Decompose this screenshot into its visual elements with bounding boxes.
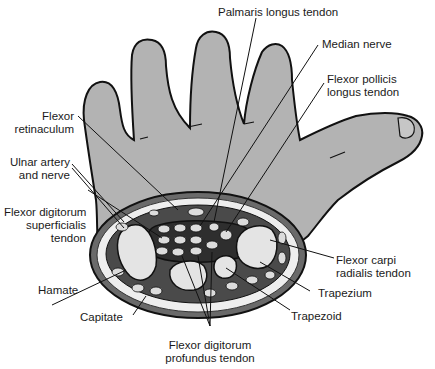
label-palmaris-longus-tendon: Palmaris longus tendon — [218, 6, 338, 19]
label-trapezoid: Trapezoid — [291, 310, 342, 323]
label-trapezium: Trapezium — [318, 287, 372, 300]
label-ulnar-artery-and-nerve: Ulnar artery and nerve — [6, 156, 70, 182]
trapezium-bone — [237, 226, 277, 269]
label-flexor-retinaculum: Flexor retinaculum — [14, 110, 74, 136]
label-hamate: Hamate — [38, 284, 78, 297]
label-capitate: Capitate — [80, 311, 123, 324]
trapezoid-bone — [214, 256, 236, 279]
label-flexor-digitorum-superficialis-tendon: Flexor digitorum superficialis tendon — [4, 206, 86, 245]
label-flexor-digitorum-profundus-tendon: Flexor digitorum profundus tendon — [160, 339, 260, 365]
label-flexor-carpi-radialis-tendon: Flexor carpi radialis tendon — [336, 254, 411, 280]
label-median-nerve: Median nerve — [322, 38, 392, 51]
carpal-tunnel-diagram — [0, 0, 435, 369]
label-flexor-pollicis-longus-tendon: Flexor pollicis longus tendon — [327, 73, 399, 99]
